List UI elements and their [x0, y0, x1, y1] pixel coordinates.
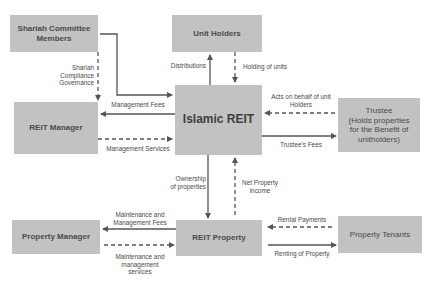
label-text: Rental Payments — [278, 216, 327, 223]
label-text: Trustee's Fees — [280, 141, 322, 148]
node-islamic-reit: Islamic REIT — [175, 85, 262, 155]
label-line: Acts on behalf of unit — [268, 93, 334, 101]
label-line: income — [238, 187, 282, 195]
label-line: services — [104, 268, 176, 276]
label-net-property-income: Net Property income — [238, 179, 282, 194]
node-trustee-line1: Trustee — [366, 106, 393, 116]
label-line: Management Fees — [104, 219, 176, 227]
label-line: Maintenance and — [104, 211, 176, 219]
label-line: Compliance — [50, 72, 94, 80]
label-line: Shariah — [50, 64, 94, 72]
node-reit-manager-label: REIT Manager — [29, 123, 82, 133]
label-management-fees: Management Fees — [107, 101, 169, 109]
node-islamic-reit-label: Islamic REIT — [183, 115, 254, 125]
label-renting-property: Renting of Property — [268, 250, 336, 258]
label-line: Maintenance and — [104, 253, 176, 261]
label-text: Management Fees — [111, 101, 164, 108]
node-reit-property: REIT Property — [176, 220, 262, 256]
label-ownership: Ownership of properties — [160, 175, 206, 190]
node-unit-holders-label: Unit Holders — [193, 29, 241, 39]
label-rental-payments: Rental Payments — [272, 216, 332, 224]
label-management-services: Management Services — [102, 145, 174, 153]
label-maintenance-fees: Maintenance and Management Fees — [104, 211, 176, 226]
label-acts-on-behalf: Acts on behalf of unit Holders — [268, 93, 334, 108]
label-shariah-governance: Shariah Compliance Governance — [50, 64, 94, 87]
node-trustee-line4: unitholders) — [358, 135, 400, 145]
node-property-manager: Property Manager — [12, 220, 100, 254]
node-trustee-line2: (Holds properties — [349, 116, 410, 126]
label-holding-units: Holding of units — [243, 63, 287, 71]
node-reit-manager: REIT Manager — [14, 102, 98, 154]
label-line: management — [104, 261, 176, 269]
label-text: Holding of units — [243, 63, 287, 70]
label-line: Net Property — [238, 179, 282, 187]
label-line: Ownership — [160, 175, 206, 183]
label-line: of properties — [160, 183, 206, 191]
label-line: Governance — [50, 79, 94, 87]
label-text: Distributions — [171, 62, 206, 69]
node-trustee: Trustee (Holds properties for the Benefi… — [338, 98, 420, 152]
node-property-tenants-label: Property Tenants — [350, 230, 410, 240]
label-text: Renting of Property — [274, 250, 329, 257]
node-property-manager-label: Property Manager — [22, 232, 90, 242]
label-line: Holders — [268, 101, 334, 109]
label-trustee-fees: Trustee's Fees — [270, 141, 332, 149]
label-distributions: Distributions — [160, 62, 206, 70]
node-reit-property-label: REIT Property — [192, 233, 245, 243]
label-text: Management Services — [106, 145, 170, 152]
node-shariah-committee-label: Shariah Committee Members — [12, 24, 96, 43]
label-maintenance-services: Maintenance and management services — [104, 253, 176, 276]
node-unit-holders: Unit Holders — [172, 15, 262, 52]
node-shariah-committee: Shariah Committee Members — [10, 15, 98, 52]
node-trustee-line3: for the Benefit of — [350, 125, 409, 135]
node-property-tenants: Property Tenants — [338, 216, 422, 253]
